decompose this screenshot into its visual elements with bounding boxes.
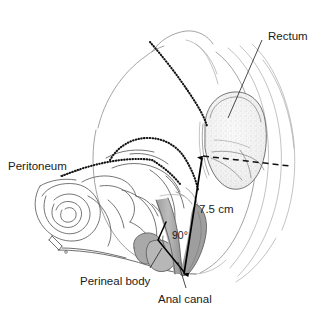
anatomy-figure: Rectum Peritoneum Perineal body Anal can…	[0, 0, 324, 319]
label-anorectal-angle: 90°	[172, 229, 188, 241]
anatomy-illustration: Rectum Peritoneum Perineal body Anal can…	[0, 0, 324, 319]
label-anal-canal: Anal canal	[158, 293, 212, 305]
label-rectum: Rectum	[268, 30, 308, 42]
label-length-measurement: 7.5 cm	[199, 203, 234, 215]
label-perineal-body: Perineal body	[80, 275, 151, 287]
label-peritoneum: Peritoneum	[8, 160, 67, 172]
